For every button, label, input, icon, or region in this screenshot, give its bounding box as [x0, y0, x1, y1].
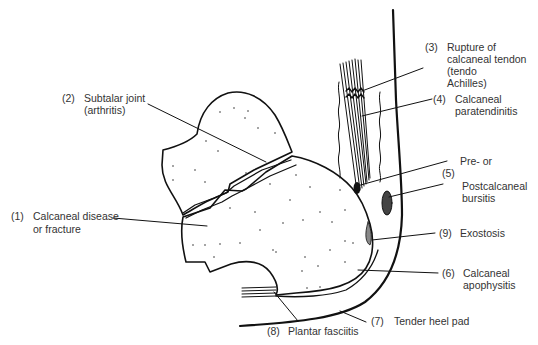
label-line: paratendinitis [455, 105, 517, 118]
leader-5b [389, 184, 443, 197]
label-number: (6) [442, 267, 455, 280]
label-line: Calcaneal [455, 93, 502, 106]
label-line: Calcaneal [463, 267, 510, 280]
label-line: Tender heel pad [394, 315, 469, 328]
label-line: apophysitis [463, 279, 516, 292]
label-line: (arthritis) [84, 104, 125, 117]
postcalcaneal-bursa [382, 191, 392, 215]
label-line: calcaneal tendon [447, 53, 526, 66]
paratenon-left [338, 82, 340, 178]
label-line: bursitis [462, 192, 495, 205]
label-line: Pre- or [460, 155, 492, 168]
label-number: (3) [425, 41, 438, 54]
label-line: Plantar fasciitis [288, 325, 359, 338]
label-line: Postcalcaneal [462, 180, 527, 193]
label-number: (7) [371, 315, 384, 328]
precalcaneal-bursa [354, 182, 361, 194]
label-line: (tendo [447, 65, 477, 78]
label-line: Subtalar joint [84, 92, 145, 105]
label-number: (5) [442, 167, 455, 180]
label-number: (4) [433, 93, 446, 106]
calcaneus-bone [182, 156, 373, 295]
achilles-tendon [340, 59, 370, 192]
leader-7 [340, 311, 366, 322]
label-line: or fracture [33, 223, 81, 236]
plantar-fascia [242, 287, 276, 297]
label-number: (1) [11, 210, 24, 223]
label-line: Rupture of [447, 41, 496, 54]
paratenon-right [379, 92, 380, 182]
label-number: (2) [62, 92, 75, 105]
label-number: (8) [267, 325, 280, 338]
leader-6 [358, 270, 438, 273]
heel-pain-diagram: (1) Calcaneal disease or fracture (2) Su… [0, 0, 538, 345]
label-line: Exostosis [460, 227, 505, 240]
leader-3 [362, 68, 423, 91]
leader-1 [113, 218, 207, 226]
label-line: Achilles) [447, 77, 487, 90]
skin-outline [240, 10, 402, 326]
leader-2 [148, 104, 266, 162]
label-number: (9) [439, 227, 452, 240]
label-line: Calcaneal disease [33, 210, 119, 223]
talus-bone [162, 92, 292, 215]
leader-9 [372, 233, 435, 240]
